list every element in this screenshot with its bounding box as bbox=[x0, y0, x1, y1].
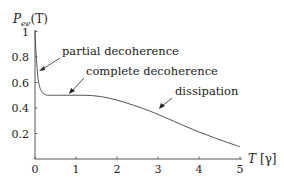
x-tick-label: 0 bbox=[32, 163, 39, 176]
x-tick-label: 3 bbox=[155, 163, 162, 176]
y-tick-label: 0.6 bbox=[12, 77, 30, 90]
x-tick-label: 1 bbox=[73, 163, 80, 176]
x-tick-label: 5 bbox=[237, 163, 244, 176]
x-tick-label: 2 bbox=[114, 163, 121, 176]
y-tick-label: 0.8 bbox=[12, 51, 30, 64]
annotation-partial-decoherence: partial decoherence bbox=[62, 44, 179, 58]
y-axis-label: Pee(T) bbox=[12, 12, 48, 28]
annotation-complete-decoherence: complete decoherence bbox=[86, 64, 218, 78]
annotation-dissipation: dissipation bbox=[175, 84, 239, 98]
y-tick-label: 0.2 bbox=[12, 128, 30, 141]
x-axis-label: T[γ] bbox=[248, 152, 277, 166]
x-tick-label: 4 bbox=[196, 163, 203, 176]
line-chart: 0123450.20.40.60.81 Pee(T) T[γ] partial … bbox=[0, 0, 284, 181]
arrowhead-icon bbox=[39, 66, 45, 71]
arrowhead-icon bbox=[159, 103, 165, 109]
y-tick-label: 0.4 bbox=[12, 102, 30, 115]
